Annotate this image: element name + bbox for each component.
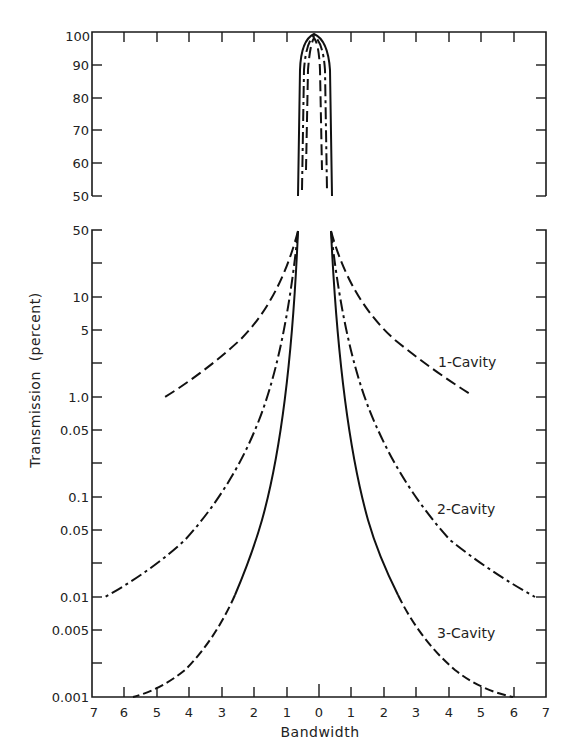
upper-tick-60: 60 (72, 156, 89, 171)
svg-text:5: 5 (153, 705, 161, 720)
lower-tick-0-001: 0.001 (52, 690, 89, 705)
lower-tick-0-1: 0.1 (68, 490, 89, 505)
lower-panel: 50 10 5 1.0 0.05 0.1 0.05 0.01 0.005 0.0… (52, 223, 550, 720)
lower-tick-50: 50 (72, 223, 89, 238)
x-axis-title: Bandwidth (280, 724, 359, 740)
svg-text:1: 1 (283, 705, 291, 720)
lower-tick-1: 1.0 (68, 390, 89, 405)
upper-curves (298, 34, 332, 196)
curve-2-cavity-right (331, 231, 535, 597)
upper-curve-1-cavity (306, 38, 322, 170)
svg-text:5: 5 (477, 705, 485, 720)
svg-text:7: 7 (542, 705, 550, 720)
lower-tick-0-005: 0.005 (52, 623, 89, 638)
svg-text:4: 4 (445, 705, 453, 720)
svg-text:3: 3 (412, 705, 420, 720)
label-3-cavity: 3-Cavity (437, 625, 495, 641)
lower-tick-5: 5 (81, 323, 89, 338)
svg-text:3: 3 (218, 705, 226, 720)
lower-tick-0-05a: 0.05 (60, 423, 89, 438)
upper-tick-80: 80 (72, 91, 89, 106)
x-axis-labels: 7 6 5 4 3 2 1 0 1 2 3 4 5 6 7 (90, 705, 550, 720)
lower-tick-0-01: 0.01 (60, 590, 89, 605)
svg-text:2: 2 (250, 705, 258, 720)
upper-panel: 100 90 80 70 60 50 (65, 29, 546, 204)
x-axis-ticks (124, 684, 514, 697)
upper-tick-90: 90 (72, 58, 89, 73)
lower-left-ticks (92, 263, 102, 663)
curve-3-cavity-right-tail (398, 595, 513, 697)
y-axis-title: Transmission (percent) (27, 292, 43, 468)
transmission-chart: 100 90 80 70 60 50 (0, 0, 579, 746)
svg-text:0: 0 (315, 705, 323, 720)
svg-text:6: 6 (120, 705, 128, 720)
lower-tick-10: 10 (72, 290, 89, 305)
curve-3-cavity-right (331, 231, 398, 595)
upper-tick-70: 70 (72, 123, 89, 138)
curve-1-cavity-left (165, 231, 298, 397)
curve-3-cavity-left-tail (133, 595, 235, 697)
curve-2-cavity-left (105, 231, 298, 597)
svg-text:1: 1 (347, 705, 355, 720)
svg-text:2: 2 (380, 705, 388, 720)
upper-tick-100: 100 (65, 29, 90, 44)
label-1-cavity: 1-Cavity (438, 354, 496, 370)
svg-text:6: 6 (510, 705, 518, 720)
svg-text:7: 7 (90, 705, 98, 720)
lower-right-ticks (536, 263, 546, 663)
svg-text:4: 4 (185, 705, 193, 720)
lower-tick-0-05b: 0.05 (60, 523, 89, 538)
upper-tick-50: 50 (72, 189, 89, 204)
curve-3-cavity-left (235, 231, 298, 595)
label-2-cavity: 2-Cavity (437, 501, 495, 517)
